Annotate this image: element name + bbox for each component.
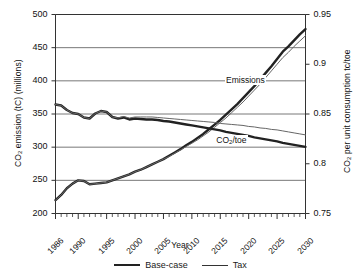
legend-item-tax: Tax — [202, 260, 247, 270]
legend-label-base-case: Base-case — [145, 260, 188, 270]
chart-legend: Base-case Tax — [0, 255, 361, 275]
legend-label-tax: Tax — [233, 260, 247, 270]
annotation-toe-pre: CO — [216, 135, 229, 145]
annotation-toe-post: /toe — [232, 135, 246, 145]
series-line-emissions-tax — [56, 36, 306, 201]
legend-item-base-case: Base-case — [114, 260, 188, 270]
series-line-co2-toe-tax — [56, 105, 306, 135]
legend-swatch-tax-icon — [202, 265, 228, 266]
chart-container: CO2 emission (tC) (millions) CO2 per uni… — [0, 0, 361, 278]
legend-swatch-base-case-icon — [114, 264, 140, 266]
annotation-emissions: Emissions — [225, 75, 266, 85]
annotation-co2-per-toe: CO2/toe — [215, 135, 247, 145]
series-line-co2-toe-base-case — [56, 105, 306, 147]
plot-area — [0, 0, 361, 278]
